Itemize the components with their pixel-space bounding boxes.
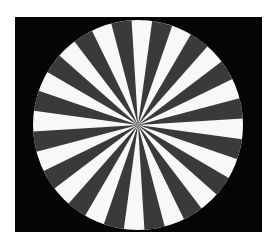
figure-canvas	[0, 0, 272, 247]
center-hub	[135, 122, 141, 128]
starburst-figure	[0, 0, 272, 247]
